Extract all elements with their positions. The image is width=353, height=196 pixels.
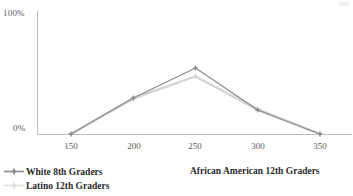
data-point-marker [317,131,323,137]
line-chart: 100% 0% 150 200 250 300 350 White 8th Gr… [0,0,353,196]
legend-item-label: Latino 12th Graders [26,181,109,191]
series-line [71,76,320,134]
legend-item-label: White 8th Graders [26,167,103,177]
x-axis-tick-200: 200 [127,141,141,151]
x-axis-tick-300: 300 [251,141,265,151]
legend-item-latino-12th-graders[interactable]: Latino 12th Graders [4,180,109,191]
x-axis-tick-350: 350 [313,141,327,151]
legend-marker-star-icon [4,180,24,191]
series-african-american-12th-graders [68,73,323,137]
series-layer [68,65,323,137]
x-axis-tick-250: 250 [188,141,202,151]
legend-item-african-american-12th-graders[interactable]: African American 12th Graders [190,166,320,176]
legend-marker-star-icon [4,166,24,177]
legend-item-white-8th-graders[interactable]: White 8th Graders [4,166,103,177]
series-latino-12th-graders [68,73,323,137]
corner-artifact [339,1,349,6]
x-axis-tick-150: 150 [64,141,78,151]
series-line [71,76,320,134]
